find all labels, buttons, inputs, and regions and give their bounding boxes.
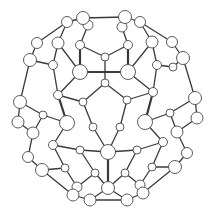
carbon-atom [79,98,87,106]
carbon-atom [121,169,129,177]
carbon-atom [153,61,162,70]
carbon-atom [24,54,37,67]
carbon-atom [159,138,168,147]
carbon-atom [14,96,27,109]
carbon-atom [101,53,109,61]
carbon-atom [124,41,133,50]
carbon-atom [49,61,58,70]
carbon-atom [121,65,136,80]
carbon-atom [169,63,177,71]
carbon-atom [119,11,132,24]
carbon-atom [77,12,90,25]
carbon-atom [138,115,153,130]
carbon-atom [101,145,116,160]
carbon-atom [148,163,156,171]
carbon-atom [182,148,193,159]
carbon-atom [116,123,124,131]
carbon-atom [169,161,182,174]
carbon-atom [27,127,39,139]
carbon-atom [62,17,73,28]
carbon-atom [84,194,96,206]
carbon-atom [91,169,99,177]
carbon-atom [167,37,178,48]
carbon-atom [54,91,63,100]
carbon-atom [146,36,158,48]
carbon-atom [36,164,49,177]
carbon-atom [191,112,203,124]
carbon-atom [76,146,84,154]
carbon-atom [23,152,34,163]
carbon-atom [39,111,47,119]
carbon-atom [177,52,190,65]
carbon-atom [137,187,149,199]
carbon-atom [102,182,115,195]
carbon-atom [101,79,109,87]
carbon-atom [61,164,69,172]
carbon-atom [60,116,75,131]
carbon-atom [135,17,146,28]
fullerene-diagram [0,0,215,220]
carbon-atom [52,37,64,49]
carbon-atom [76,41,85,50]
carbon-atom [67,189,79,201]
carbon-atom [12,116,24,128]
carbon-atom [166,109,174,117]
carbon-atom [32,38,43,49]
carbon-atom [121,194,133,206]
carbon-atom [189,92,202,105]
carbon-atom [49,141,58,150]
carbon-atom [133,146,141,154]
carbon-atom [149,88,158,97]
carbon-atom [73,65,88,80]
carbon-atom [123,96,131,104]
carbon-atom [89,123,97,131]
carbon-atom [171,126,183,138]
